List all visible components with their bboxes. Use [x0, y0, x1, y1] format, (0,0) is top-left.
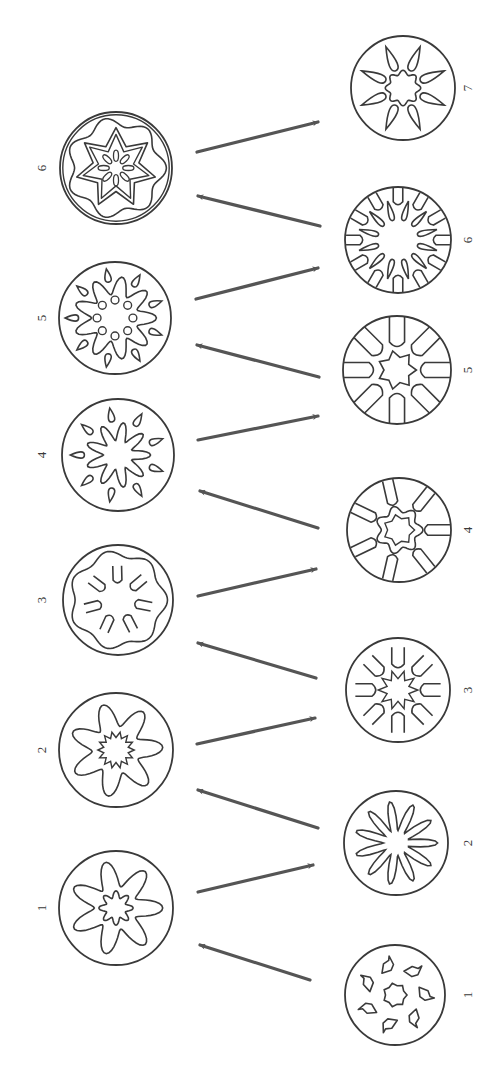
pattern-circle-left-3 — [63, 545, 173, 655]
label-left-6: 6 — [34, 160, 50, 176]
arrow-left-4-to-right-5 — [198, 416, 318, 440]
pattern-circle-right-5 — [343, 316, 451, 424]
label-left-2: 2 — [34, 742, 50, 758]
pattern-circle-left-6 — [60, 112, 172, 224]
pattern-circle-right-7 — [351, 36, 455, 140]
pattern-circle-left-5 — [59, 262, 171, 374]
arrow-right-2-to-left-2 — [198, 790, 318, 828]
arrow-left-1-to-right-2 — [198, 865, 313, 892]
label-right-7: 7 — [460, 80, 476, 96]
pattern-circle-right-1 — [345, 945, 445, 1045]
arrow-right-5-to-left-5 — [197, 345, 319, 377]
pattern-circle-right-2 — [344, 791, 448, 895]
label-left-1: 1 — [34, 900, 50, 916]
arrows-layer — [196, 122, 320, 980]
label-right-2: 2 — [460, 835, 476, 851]
label-right-6: 6 — [460, 232, 476, 248]
pattern-circle-left-1 — [59, 851, 173, 965]
pattern-circle-right-3 — [346, 638, 450, 742]
label-right-3: 3 — [460, 682, 476, 698]
arrow-right-6-to-left-6 — [198, 196, 320, 226]
arrow-right-3-to-left-3 — [198, 643, 316, 678]
label-left-4: 4 — [34, 447, 50, 463]
label-right-4: 4 — [460, 522, 476, 538]
left-column — [59, 112, 174, 965]
right-column — [343, 36, 455, 1045]
arrow-left-6-to-right-7 — [197, 122, 318, 152]
pattern-circle-left-4 — [62, 399, 174, 511]
arrow-left-3-to-right-4 — [198, 569, 316, 596]
arrow-left-5-to-right-6 — [196, 268, 318, 299]
label-right-1: 1 — [460, 987, 476, 1003]
pattern-circle-right-6 — [345, 187, 451, 293]
pattern-circle-left-2 — [59, 693, 173, 807]
label-right-5: 5 — [460, 362, 476, 378]
diagram-canvas — [0, 0, 502, 1084]
arrow-right-1-to-left-1 — [200, 945, 310, 980]
label-left-3: 3 — [34, 592, 50, 608]
arrow-left-2-to-right-3 — [197, 718, 315, 744]
label-left-5: 5 — [34, 310, 50, 326]
arrow-right-4-to-left-4 — [200, 491, 318, 528]
pattern-circle-right-4 — [347, 478, 451, 582]
